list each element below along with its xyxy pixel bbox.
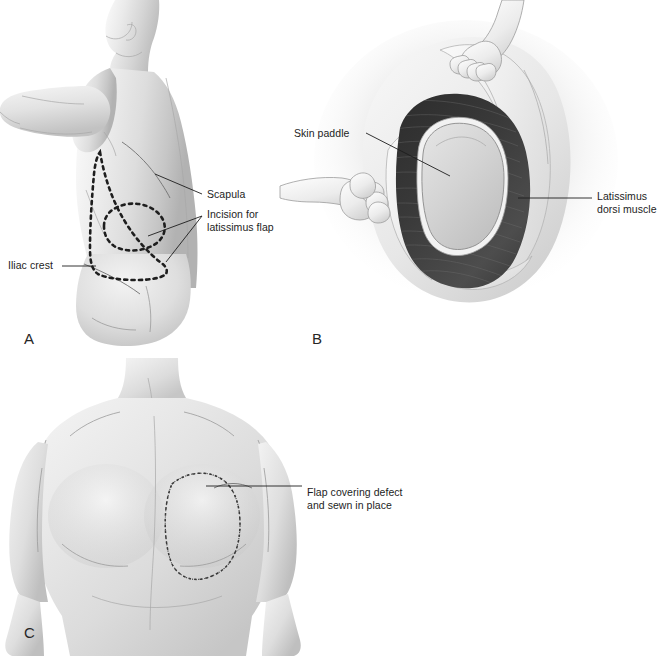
- left-thumb: [350, 173, 376, 198]
- panel-letter-c: C: [24, 624, 35, 641]
- panel-b-artwork: [280, 0, 658, 360]
- panel-letter-a: A: [24, 330, 34, 347]
- label-latissimus-dorsi-muscle: Latissimus dorsi muscle: [597, 190, 657, 215]
- neck-c: [118, 358, 186, 398]
- upper-finger-4: [476, 63, 496, 81]
- figure-a-body: [0, 0, 198, 346]
- panel-b: [280, 0, 658, 360]
- illustration-canvas: A B C Scapula Incision for latissimus fl…: [0, 0, 658, 656]
- label-scapula: Scapula: [207, 188, 245, 201]
- label-skin-paddle: Skin paddle: [294, 127, 349, 140]
- left-finger-3: [368, 202, 390, 223]
- label-iliac-crest: Iliac crest: [8, 259, 53, 272]
- left-arm: [0, 86, 110, 137]
- head-and-neck: [105, 0, 159, 72]
- panel-letter-b: B: [312, 330, 322, 347]
- left-pectoral: [144, 464, 260, 568]
- label-flap-covering-defect: Flap covering defect and sewn in place: [307, 486, 403, 511]
- left-hand-c: [262, 594, 301, 656]
- skin-paddle: [422, 123, 504, 249]
- figure-c-body: [5, 358, 301, 656]
- label-incision-for-latissimus-flap: Incision for latissimus flap: [207, 208, 274, 233]
